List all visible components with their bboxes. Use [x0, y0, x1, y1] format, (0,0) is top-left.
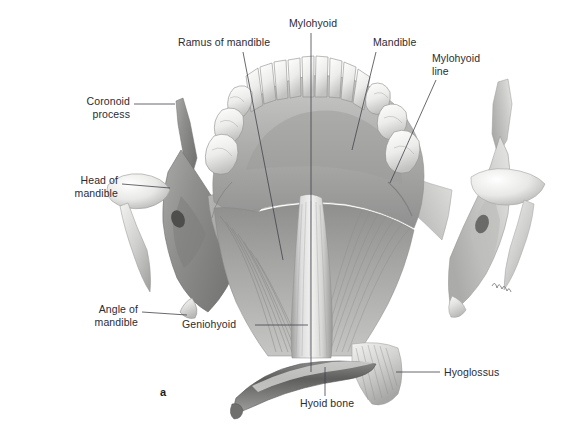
label-ramus-of-mandible: Ramus of mandible — [178, 36, 290, 49]
label-mandible: Mandible — [373, 36, 433, 49]
label-hyoid-bone: Hyoid bone — [300, 397, 374, 410]
label-hyoglossus: Hyoglossus — [444, 366, 518, 379]
anatomical-figure: Coronoid process Head of mandible Angle … — [0, 0, 576, 435]
label-mylohyoid-line: Mylohyoid line — [432, 52, 496, 77]
hyoid-bone — [230, 361, 376, 419]
label-coronoid-process: Coronoid process — [46, 95, 130, 120]
label-geniohyoid: Geniohyoid — [182, 318, 252, 331]
label-angle-of-mandible: Angle of mandible — [56, 303, 138, 328]
panel-letter: a — [160, 386, 166, 398]
label-head-of-mandible: Head of mandible — [32, 174, 118, 199]
label-mylohyoid: Mylohyoid — [289, 17, 363, 30]
